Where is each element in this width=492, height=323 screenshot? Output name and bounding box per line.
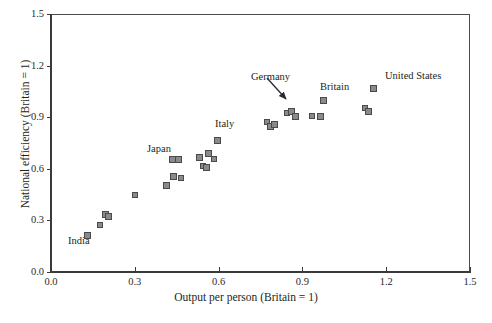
y-tick [47,220,52,221]
y-tick [47,14,52,15]
plot-area [51,14,470,272]
y-tick [47,169,52,170]
y-axis-title: National efficiency (Britain = 1) [19,19,31,249]
data-point [196,154,203,161]
data-point [365,108,372,115]
data-point [132,192,138,198]
india-label: India [68,235,90,247]
data-point [317,113,324,120]
data-point [214,137,221,144]
data-point [178,175,184,181]
y-tick [47,117,52,118]
data-point [309,113,315,119]
japan-label: Japan [147,143,171,155]
x-tick-label: 1.2 [366,276,406,288]
data-point [175,156,182,163]
data-point [97,222,103,228]
x-tick-label: 0.9 [282,276,322,288]
x-tick [386,267,387,272]
italy-label: Italy [215,118,234,130]
x-axis-line [51,271,471,273]
data-point [320,97,327,104]
britain-label: Britain [320,81,349,93]
x-tick [219,267,220,272]
y-tick-label: 0.0 [8,266,44,278]
scatter-plot-figure: 0.00.30.60.91.21.50.00.30.60.91.21.5Indi… [0,0,492,323]
data-point [170,173,177,180]
y-tick [47,66,52,67]
data-point [105,213,112,220]
y-axis-line [50,14,52,273]
data-point [203,164,210,171]
germany-pointer-arrow [258,74,300,110]
x-tick [135,267,136,272]
x-tick-label: 0.6 [199,276,239,288]
data-point [211,156,217,162]
data-point [370,85,377,92]
x-tick-label: 1.5 [450,276,490,288]
data-point [163,182,170,189]
united-states-label: United States [385,70,441,82]
data-point [292,113,299,120]
y-tick [47,272,52,273]
x-tick [302,267,303,272]
x-tick [470,267,471,272]
data-point [271,121,278,128]
x-tick-label: 0.3 [115,276,155,288]
x-axis-title: Output per person (Britain = 1) [0,291,492,303]
